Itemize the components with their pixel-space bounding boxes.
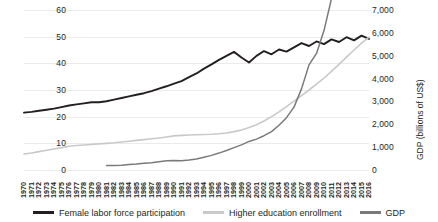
y-axis-right-title-label: GDP (billions of US$) <box>415 79 425 160</box>
series-lines <box>24 10 369 170</box>
legend-label: Female labor force participation <box>59 208 185 218</box>
legend-swatch-icon <box>360 211 381 214</box>
y-axis-right-tick-label: 1,000 <box>372 143 404 152</box>
series-line <box>107 0 370 166</box>
y-axis-left-tick-label: 30 <box>44 86 66 95</box>
plot-area <box>24 10 369 170</box>
chart-legend: Female labor force participationHigher e… <box>0 203 438 222</box>
line-chart: 6050403020100 7,0006,0005,0004,0003,0002… <box>0 0 438 222</box>
y-axis-left-tick-label: 20 <box>44 113 66 122</box>
y-axis-right-tick-label: 3,000 <box>372 97 404 106</box>
y-axis-right-tick-label: 5,000 <box>372 52 404 61</box>
y-axis-left-tick-label: 40 <box>44 59 66 68</box>
legend-item[interactable]: Higher education enrollment <box>203 208 342 218</box>
legend-item[interactable]: Female labor force participation <box>33 208 185 218</box>
y-axis-right-tick-label: 4,000 <box>372 75 404 84</box>
y-axis-right-tick-label: 7,000 <box>372 6 404 15</box>
legend-item[interactable]: GDP <box>360 208 406 218</box>
x-axis-tick: 2016 <box>365 171 374 199</box>
legend-label: Higher education enrollment <box>229 208 342 218</box>
x-axis-ticks: 1970197119721973197419751976197719781979… <box>24 171 369 199</box>
y-axis-left-tick-label: 60 <box>44 6 66 15</box>
y-axis-left-tick-label: 10 <box>44 139 66 148</box>
y-axis-right-tick-label: 2,000 <box>372 120 404 129</box>
series-line <box>24 36 369 113</box>
y-axis-right-tick-label: 6,000 <box>372 29 404 38</box>
y-axis-right-tick-label: 0 <box>372 166 404 175</box>
legend-label: GDP <box>386 208 406 218</box>
series-line <box>24 37 369 154</box>
x-axis-tick-label: 2016 <box>365 182 373 198</box>
legend-swatch-icon <box>203 211 224 214</box>
y-axis-right-title: GDP (billions of US$) <box>404 28 418 160</box>
legend-swatch-icon <box>33 211 54 214</box>
y-axis-left-tick-label: 50 <box>44 33 66 42</box>
